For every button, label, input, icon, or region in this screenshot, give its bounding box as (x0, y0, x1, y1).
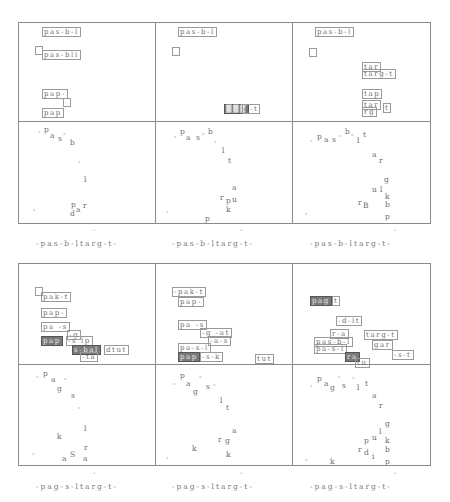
alignment-char: p (43, 370, 48, 378)
alignment-char: k (330, 458, 335, 466)
token-box: rg (362, 107, 377, 117)
alignment-char: a (372, 151, 376, 159)
alignment-char: g (384, 176, 389, 184)
alignment-char: - (174, 133, 177, 141)
alignment-char: p (44, 126, 49, 134)
alignment-char: S (70, 451, 75, 459)
alignment-char: a (51, 376, 55, 384)
alignment-char: r (218, 436, 222, 444)
alignment-char: - (166, 454, 169, 462)
alignment-char: - (202, 130, 205, 138)
alignment-char: - (338, 373, 341, 381)
token-box: pak-t (41, 292, 71, 302)
alignment-char: - (305, 456, 308, 464)
empty-token-box (63, 98, 71, 107)
token-box: -ta (80, 352, 98, 362)
alignment-char: l (222, 147, 224, 155)
alignment-char: k (385, 437, 390, 445)
token-box: pap (42, 108, 64, 118)
alignment-char: b (385, 201, 390, 209)
alignment-char: a (324, 136, 328, 144)
alignment-char: d (364, 449, 369, 457)
alignment-char: - (305, 210, 308, 218)
alignment-char: g (330, 384, 335, 392)
alignment-char: r (358, 446, 362, 454)
token-box: t (332, 296, 340, 306)
alignment-char: k (57, 433, 62, 441)
alignment-char: r (220, 194, 224, 202)
token-box: tut (255, 354, 274, 364)
alignment-char: s (58, 135, 62, 143)
alignment-char: b (385, 446, 390, 454)
empty-token-box (309, 48, 317, 57)
token-box: g-t (242, 104, 260, 114)
top-row-divider (18, 121, 431, 122)
top-caption-2: -pas-b-ltarg-t- (172, 239, 254, 248)
alignment-char: k (192, 445, 197, 453)
token-box: pas-b-l (178, 27, 217, 37)
alignment-char: p (385, 458, 390, 466)
empty-token-box (172, 47, 180, 56)
alignment-char: t (363, 131, 366, 139)
token-box: pa -s (41, 322, 70, 332)
tick-mark: - (240, 226, 242, 234)
alignment-char: s (342, 382, 346, 390)
token-box: pa-s-l (314, 344, 347, 354)
alignment-char: u (372, 434, 377, 442)
alignment-char: - (78, 158, 81, 166)
token-box: pas-bli (42, 50, 81, 60)
alignment-char: l (84, 425, 86, 433)
alignment-char: - (64, 375, 67, 383)
alignment-char: g (57, 385, 62, 393)
alignment-char: b (208, 128, 213, 136)
alignment-char: i (372, 453, 374, 461)
alignment-char: a (232, 427, 236, 435)
alignment-char: s (196, 134, 200, 142)
alignment-char: a (186, 134, 190, 142)
alignment-char: - (214, 138, 217, 146)
alignment-char: p (364, 437, 369, 445)
alignment-char: - (173, 380, 176, 388)
token-box: targ-t (362, 69, 396, 79)
token-box: -a-s (208, 336, 231, 346)
tick-mark: - (240, 469, 242, 477)
alignment-char: t (228, 157, 231, 165)
alignment-char: a (50, 132, 54, 140)
token-box: tu (355, 358, 370, 368)
token-box: t (383, 103, 391, 113)
token-box: -pak-t (172, 287, 206, 297)
alignment-char: g (193, 388, 198, 396)
token-box: pap (41, 336, 63, 346)
token-box: pap- (41, 308, 67, 318)
alignment-char: - (199, 373, 202, 381)
token-box: gar (372, 340, 393, 350)
alignment-char: a (76, 206, 80, 214)
tick-mark: - (93, 469, 95, 477)
alignment-char: b (70, 139, 75, 147)
token-box: pap- (178, 297, 204, 307)
token-box: targ-t (364, 330, 398, 340)
alignment-char: p (317, 375, 322, 383)
alignment-char: a (324, 380, 328, 388)
alignment-char: - (32, 450, 35, 458)
alignment-char: - (352, 374, 355, 382)
alignment-char: - (310, 382, 313, 390)
alignment-char: p (180, 372, 185, 380)
alignment-char: l (357, 137, 359, 145)
alignment-char: r (379, 157, 383, 165)
token-box: pas-b-l (42, 27, 81, 37)
token-box: pap (178, 352, 200, 362)
alignment-char: s (206, 383, 210, 391)
top-column-divider-2 (292, 22, 293, 224)
alignment-char: t (365, 380, 368, 388)
alignment-char: u (372, 186, 377, 194)
alignment-char: l (380, 186, 382, 194)
alignment-char: a (372, 392, 376, 400)
alignment-char: - (36, 373, 39, 381)
alignment-char: - (33, 206, 36, 214)
tick-mark: - (93, 226, 95, 234)
alignment-char: r (83, 202, 87, 210)
alignment-char: - (63, 130, 66, 138)
alignment-char: p (180, 128, 185, 136)
alignment-char: s (332, 136, 336, 144)
